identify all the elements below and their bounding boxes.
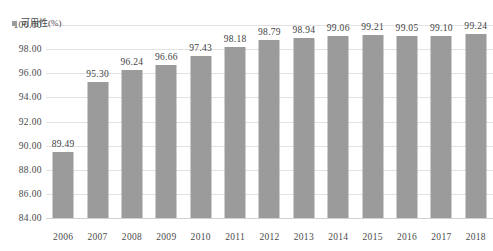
bar-value-label: 97.43: [189, 43, 212, 54]
x-axis-tick-label: 2010: [191, 232, 211, 243]
bar-value-label: 98.94: [292, 25, 315, 36]
bar[interactable]: [259, 40, 280, 218]
x-axis-tick-label: 2017: [431, 232, 451, 243]
bar-group: 89.492006: [46, 0, 80, 251]
chart-legend: 可用性(%): [12, 18, 62, 28]
bar[interactable]: [397, 36, 418, 218]
bar[interactable]: [465, 34, 486, 218]
bar-group: 96.242008: [115, 0, 149, 251]
x-axis-tick-label: 2013: [294, 232, 314, 243]
bar-group: 98.182011: [218, 0, 252, 251]
bar-group: 99.062014: [321, 0, 355, 251]
x-axis-tick-label: 2014: [328, 232, 348, 243]
x-axis-tick-label: 2011: [225, 232, 245, 243]
bar[interactable]: [156, 65, 177, 218]
x-axis-tick-label: 2016: [397, 232, 417, 243]
x-axis-tick-label: 2007: [87, 232, 107, 243]
bar-value-label: 99.05: [396, 23, 419, 34]
x-axis-tick-label: 2018: [466, 232, 486, 243]
x-axis-tick-label: 2006: [53, 232, 73, 243]
bar-value-label: 95.30: [86, 69, 109, 80]
y-axis-tick-label: 88.00: [19, 165, 42, 175]
y-axis-tick-label: 94.00: [19, 92, 42, 102]
y-axis-tick-label: 92.00: [19, 117, 42, 127]
y-axis-tick-label: 84.00: [19, 213, 42, 223]
bar[interactable]: [328, 36, 349, 218]
bar-value-label: 99.24: [464, 21, 487, 32]
plot-area: 89.49200695.30200796.24200896.66200997.4…: [46, 0, 493, 251]
bar-value-label: 99.10: [430, 23, 453, 34]
bar[interactable]: [87, 82, 108, 218]
bar-series: 89.49200695.30200796.24200896.66200997.4…: [46, 0, 493, 251]
bar[interactable]: [431, 36, 452, 218]
bar-group: 99.052016: [390, 0, 424, 251]
bar-value-label: 89.49: [52, 139, 75, 150]
bar[interactable]: [225, 47, 246, 218]
bar-group: 99.242018: [459, 0, 493, 251]
bar-group: 96.662009: [149, 0, 183, 251]
x-axis-tick-label: 2009: [156, 232, 176, 243]
y-axis-tick-label: 96.00: [19, 68, 42, 78]
legend-label: 可用性(%): [21, 18, 62, 28]
bar-group: 99.212015: [355, 0, 389, 251]
y-axis-tick-label: 90.00: [19, 141, 42, 151]
bar-group: 98.792012: [252, 0, 286, 251]
bar-group: 95.302007: [80, 0, 114, 251]
legend-swatch-icon: [12, 21, 17, 26]
bar-value-label: 96.66: [155, 52, 178, 63]
bar-group: 97.432010: [184, 0, 218, 251]
bar-group: 99.102017: [424, 0, 458, 251]
bar-value-label: 98.18: [224, 34, 247, 45]
bar[interactable]: [121, 70, 142, 218]
bar[interactable]: [53, 152, 74, 218]
availability-bar-chart: 100.0098.0096.0094.0092.0090.0088.0086.0…: [0, 0, 493, 251]
bar[interactable]: [362, 35, 383, 218]
y-axis-tick-label: 86.00: [19, 189, 42, 199]
bar-value-label: 98.79: [258, 27, 281, 38]
bar-group: 98.942013: [287, 0, 321, 251]
x-axis-tick-label: 2015: [363, 232, 383, 243]
bar-value-label: 99.06: [327, 23, 350, 34]
bar[interactable]: [293, 38, 314, 218]
y-axis: 100.0098.0096.0094.0092.0090.0088.0086.0…: [0, 0, 46, 251]
bar[interactable]: [190, 56, 211, 218]
y-axis-tick-label: 98.00: [19, 44, 42, 54]
x-axis-tick-label: 2012: [259, 232, 279, 243]
bar-value-label: 96.24: [121, 57, 144, 68]
x-axis-tick-label: 2008: [122, 232, 142, 243]
bar-value-label: 99.21: [361, 22, 384, 33]
